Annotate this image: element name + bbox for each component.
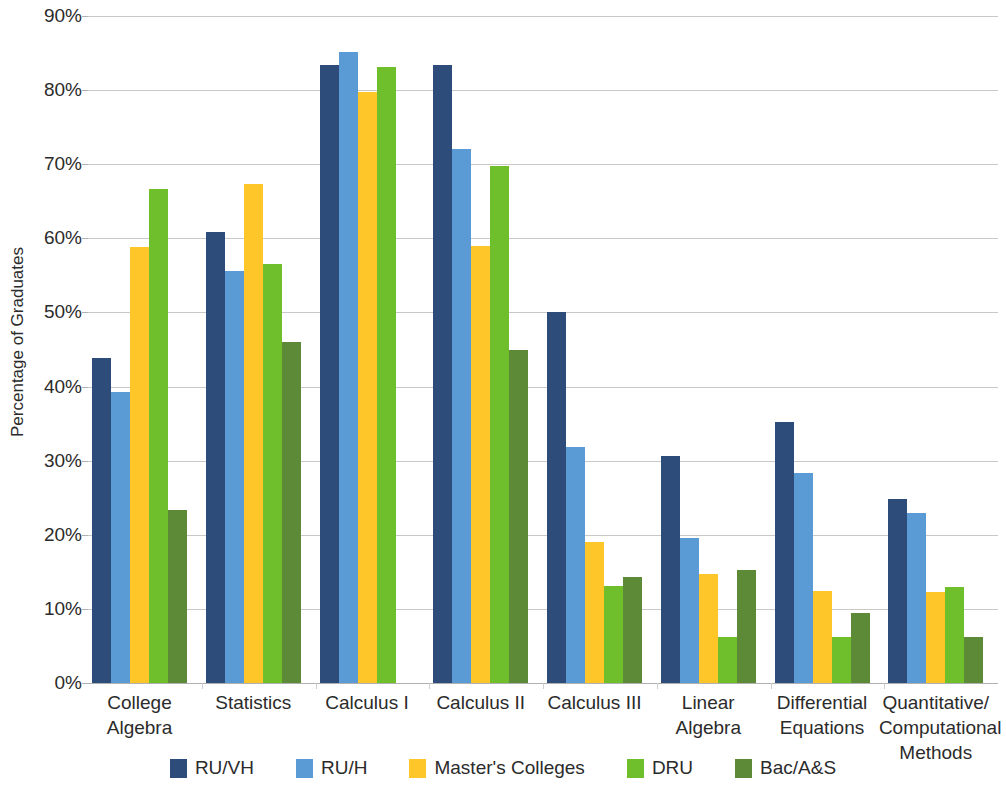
bar-group	[92, 16, 187, 683]
x-axis-label: LinearAlgebra	[651, 690, 765, 740]
bar	[832, 637, 851, 683]
bar	[471, 246, 490, 683]
bar-group	[888, 16, 983, 683]
x-axis-label: Quantitative/ComputationalMethods	[879, 690, 993, 765]
bar	[92, 358, 111, 683]
y-axis-tick-label: 70%	[36, 153, 82, 175]
bar	[130, 247, 149, 683]
y-axis-tick-label: 60%	[36, 227, 82, 249]
bar	[661, 456, 680, 683]
bar	[225, 271, 244, 683]
bar	[851, 613, 870, 683]
legend-label: DRU	[652, 757, 693, 779]
bar-group	[775, 16, 870, 683]
bar	[888, 499, 907, 683]
x-axis-label-line: Computational	[879, 715, 993, 740]
x-axis-label-line: Calculus I	[310, 690, 424, 715]
x-axis-label-line: Statistics	[196, 690, 310, 715]
legend-swatch-icon	[296, 759, 313, 778]
bar	[585, 542, 604, 683]
x-axis-label-line: Quantitative/	[879, 690, 993, 715]
bar	[358, 92, 377, 683]
legend-label: RU/H	[321, 757, 367, 779]
bar	[718, 637, 737, 683]
bar	[699, 574, 718, 683]
x-axis-label-line: Calculus III	[538, 690, 652, 715]
legend-label: RU/VH	[195, 757, 254, 779]
bar	[206, 232, 225, 683]
bar	[433, 65, 452, 683]
legend-label: Bac/A&S	[760, 757, 836, 779]
bar-group	[661, 16, 756, 683]
y-axis-title-text: Percentage of Graduates	[8, 247, 28, 437]
x-axis-label-line: Linear	[651, 690, 765, 715]
x-axis-label: DifferentialEquations	[765, 690, 879, 740]
bar-group	[206, 16, 301, 683]
bar	[775, 422, 794, 683]
y-axis-title: Percentage of Graduates	[0, 0, 36, 683]
bar	[964, 637, 983, 683]
bar	[680, 538, 699, 683]
bar	[339, 52, 358, 683]
y-axis-tick-label: 0%	[36, 672, 82, 694]
bar	[452, 149, 471, 683]
legend-item[interactable]: DRU	[627, 757, 693, 779]
bar	[907, 513, 926, 683]
bar	[149, 189, 168, 683]
category-separator	[316, 683, 317, 689]
bar	[737, 570, 756, 683]
y-axis-tick-label: 30%	[36, 450, 82, 472]
bar-chart: Percentage of Graduates 90%80%70%60%50%4…	[0, 0, 1006, 796]
legend-item[interactable]: Master's Colleges	[409, 757, 584, 779]
legend-swatch-icon	[170, 759, 187, 778]
y-axis-tick-label: 40%	[36, 376, 82, 398]
x-axis-label: Calculus II	[424, 690, 538, 715]
bar	[794, 473, 813, 683]
bar	[244, 184, 263, 684]
category-separator	[771, 683, 772, 689]
bar	[282, 342, 301, 683]
x-axis-label-line: College	[83, 690, 197, 715]
category-separator	[202, 683, 203, 689]
x-axis-label-line: Algebra	[83, 715, 197, 740]
legend: RU/VHRU/HMaster's CollegesDRUBac/A&S	[0, 757, 1006, 789]
x-axis-label: Calculus III	[538, 690, 652, 715]
category-separator	[429, 683, 430, 689]
legend-item[interactable]: RU/VH	[170, 757, 254, 779]
bar	[566, 447, 585, 683]
y-axis-tick-label: 80%	[36, 79, 82, 101]
bar	[604, 586, 623, 683]
bar	[547, 312, 566, 683]
bar	[813, 591, 832, 683]
bar	[111, 392, 130, 683]
bar	[490, 166, 509, 683]
legend-item[interactable]: RU/H	[296, 757, 367, 779]
bar	[320, 65, 339, 683]
bar	[168, 510, 187, 683]
legend-swatch-icon	[627, 759, 644, 778]
legend-label: Master's Colleges	[434, 757, 584, 779]
category-separator	[657, 683, 658, 689]
bar	[263, 264, 282, 683]
plot-area	[88, 16, 998, 683]
bar-group	[433, 16, 528, 683]
x-axis-label: CollegeAlgebra	[83, 690, 197, 740]
x-axis-label-line: Algebra	[651, 715, 765, 740]
x-axis-label: Statistics	[196, 690, 310, 715]
legend-swatch-icon	[409, 759, 426, 778]
legend-item[interactable]: Bac/A&S	[735, 757, 836, 779]
y-axis-tick-label: 20%	[36, 524, 82, 546]
x-axis-label-line: Differential	[765, 690, 879, 715]
legend-swatch-icon	[735, 759, 752, 778]
x-axis-label-line: Equations	[765, 715, 879, 740]
bar	[377, 67, 396, 683]
x-axis-label: Calculus I	[310, 690, 424, 715]
category-separator	[543, 683, 544, 689]
bar	[623, 577, 642, 683]
category-separator	[884, 683, 885, 689]
x-axis-label-line: Calculus II	[424, 690, 538, 715]
y-axis-tick-label: 10%	[36, 598, 82, 620]
bar	[509, 350, 528, 683]
y-axis-tick-label: 50%	[36, 301, 82, 323]
bar	[926, 592, 945, 683]
